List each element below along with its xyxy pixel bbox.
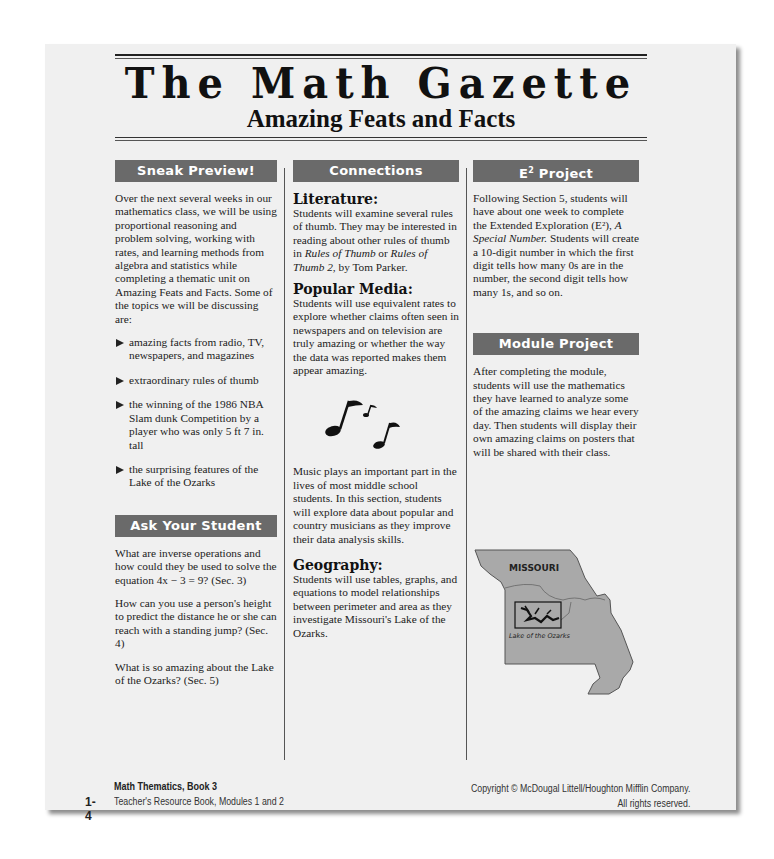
section-header-connections: Connections (293, 160, 459, 182)
question: What is so amazing about the Lake of the… (115, 661, 277, 688)
literature-text: Students will examine several rules of t… (293, 207, 459, 274)
popular-media-text: Students will use equivalent rates to ex… (293, 297, 459, 377)
section-header-sneak-preview: Sneak Preview! (115, 160, 277, 182)
literature-block: Literature: Students will examine severa… (293, 192, 459, 274)
topic-list: amazing facts from radio, TV, newspapers… (115, 336, 277, 490)
bullet-triangle-icon (116, 339, 124, 347)
map-state-label: MISSOURI (509, 563, 559, 573)
music-text: Music plays an important part in the liv… (293, 465, 459, 545)
masthead-title: The Math Gazette (115, 57, 647, 110)
column-middle: Connections Literature: Students will ex… (293, 160, 459, 648)
section-header-module-project: Module Project (473, 333, 639, 355)
rights-text: All rights reserved. (471, 796, 690, 811)
masthead-subtitle: Amazing Feats and Facts (115, 104, 647, 134)
question: How can you use a person's height to pre… (115, 597, 277, 651)
bullet-triangle-icon (116, 377, 124, 385)
question: What are inverse operations and how coul… (115, 547, 277, 587)
bullet-triangle-icon (116, 466, 124, 474)
book-title: Math Thematics, Book 3 (114, 781, 217, 792)
literature-title: Literature: (293, 192, 459, 207)
column-left: Sneak Preview! Over the next several wee… (115, 160, 277, 697)
topic-item: extraordinary rules of thumb (115, 374, 277, 387)
geography-text: Students will use tables, graphs, and eq… (293, 573, 459, 640)
newsletter-page: The Math Gazette Amazing Feats and Facts… (45, 44, 736, 810)
column-right: E2 Project Following Section 5, students… (473, 160, 639, 469)
copyright-text: Copyright © McDougal Littell/Houghton Mi… (471, 781, 690, 796)
masthead-bottom-rule (115, 137, 647, 141)
page-number: 1-4 (85, 795, 96, 823)
bullet-triangle-icon (116, 401, 124, 409)
geography-title: Geography: (293, 558, 459, 573)
sneak-preview-intro: Over the next several weeks in our mathe… (115, 192, 277, 326)
geography-block: Geography: Students will use tables, gra… (293, 558, 459, 640)
section-header-ask-your-student: Ask Your Student (115, 515, 277, 537)
module-project-text: After completing the module, students wi… (473, 365, 639, 459)
map-lake-label: Lake of the Ozarks (509, 632, 570, 640)
book-subtitle: Teacher's Resource Book, Modules 1 and 2 (114, 796, 284, 807)
footer-right: Copyright © McDougal Littell/Houghton Mi… (441, 781, 690, 811)
topic-item: the surprising features of the Lake of t… (115, 463, 277, 490)
music-notes-icon (293, 385, 459, 455)
section-header-e2-project: E2 Project (473, 160, 639, 182)
e2-project-text: Following Section 5, students will have … (473, 192, 639, 299)
missouri-map: MISSOURI Lake of the Ozarks (465, 538, 665, 708)
topic-item: amazing facts from radio, TV, newspapers… (115, 336, 277, 363)
popular-media-block: Popular Media: Students will use equival… (293, 282, 459, 377)
topic-item: the winning of the 1986 NBA Slam dunk Co… (115, 398, 277, 452)
popular-media-title: Popular Media: (293, 282, 459, 297)
column-divider-left (284, 168, 285, 760)
